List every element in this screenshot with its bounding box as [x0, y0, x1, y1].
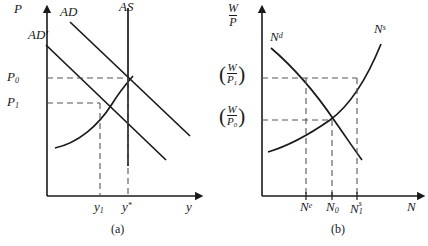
x-tick-n1s-sub: 1 [359, 208, 363, 216]
panel-a-y-axis-label: P [14, 2, 22, 15]
wp0-denominator-sub: 0 [234, 121, 237, 128]
y-tick-label-p0: P0 [7, 70, 19, 85]
wp1-denominator-sub: 1 [234, 79, 237, 86]
curve-label-ns-sup: s [383, 23, 386, 32]
curve-label-ns-main: N [374, 21, 383, 36]
panel-a [46, 8, 196, 196]
wp1-left-paren: ( [219, 64, 226, 85]
panel-b-caption: (b) [331, 222, 345, 237]
wp0-denominator: P [227, 115, 234, 127]
x-tick-n1s-main: N [350, 201, 359, 216]
wp0-left-paren: ( [219, 106, 226, 127]
curve-label-labour-demand: Nd [270, 30, 283, 43]
y-tick-p0-sub: 0 [15, 76, 19, 85]
curve-label-ad: AD [60, 5, 77, 18]
x-tick-label-ne: Ne [300, 200, 312, 213]
x-tick-label-n0: N0 [326, 200, 339, 215]
curve-label-labour-supply: Ns [374, 22, 386, 35]
x-tick-y1-sub: 1 [100, 206, 104, 215]
wp1-denominator: P [227, 73, 234, 85]
x-tick-label-n1s: Ns1 [350, 200, 363, 215]
y-tick-p1-sub: 1 [15, 101, 19, 110]
y-tick-label-wp0: ( W P0 ) [219, 104, 245, 128]
curve-ad-prime [46, 45, 166, 160]
wp0-right-paren: ) [238, 106, 245, 127]
curve-label-nd-main: N [270, 29, 279, 44]
curve-sras [55, 76, 133, 148]
curve-label-ad-prime: AD′ [28, 28, 48, 41]
panel-b-y-axis-label: W P [228, 2, 238, 28]
y-tick-p1-main: P [7, 94, 15, 109]
x-tick-ne-sup: e [309, 201, 313, 210]
wp1-numerator: W [227, 62, 236, 73]
curve-label-as: AS [119, 0, 133, 13]
panel-a-x-axis-label: y [186, 200, 192, 213]
wp0-numerator: W [227, 104, 236, 115]
y-tick-label-p1: P1 [7, 95, 19, 110]
panel-b-y-axis-denominator: P [229, 15, 236, 29]
x-tick-label-ystar: y* [122, 200, 132, 213]
x-tick-n0-main: N [326, 199, 335, 214]
panel-b-y-axis-numerator: W [228, 2, 238, 15]
x-tick-ystar-sup: * [128, 201, 132, 210]
wp1-right-paren: ) [238, 64, 245, 85]
panel-b-x-axis-label: N [407, 200, 416, 213]
panel-b [262, 12, 418, 200]
panel-a-caption: (a) [111, 222, 124, 237]
x-tick-n0-sub: 0 [335, 206, 339, 215]
y-tick-label-wp1: ( W P1 ) [219, 62, 245, 86]
x-tick-ne-main: N [300, 199, 309, 214]
curve-label-nd-sup: d [279, 31, 283, 40]
y-tick-p0-main: P [7, 69, 15, 84]
economics-figure [0, 0, 428, 246]
x-tick-label-y1: y1 [94, 200, 104, 215]
curve-labour-demand [271, 48, 362, 160]
